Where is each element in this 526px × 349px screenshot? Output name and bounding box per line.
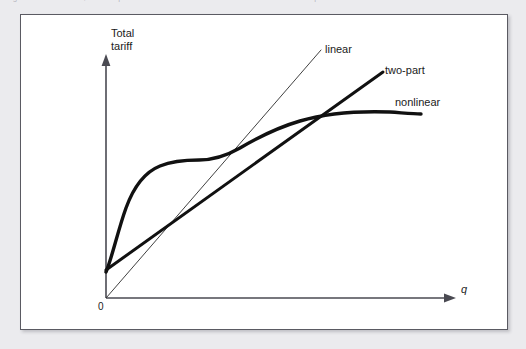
origin-label: 0 (98, 300, 104, 313)
y-axis-label-line-1: Total (111, 27, 134, 40)
top-text-remnant: ing a non-linear tariff; the two-part ta… (0, 0, 526, 9)
x-axis-label: q (461, 283, 467, 296)
figure-frame (20, 14, 508, 330)
series-label-two-part: two-part (385, 64, 425, 77)
series-label-nonlinear: nonlinear (395, 96, 440, 109)
series-label-linear: linear (325, 43, 352, 56)
top-text-remnant-line: ing a non-linear tariff; the two-part ta… (0, 0, 344, 2)
y-axis-label-line-2: tariff (111, 40, 132, 53)
